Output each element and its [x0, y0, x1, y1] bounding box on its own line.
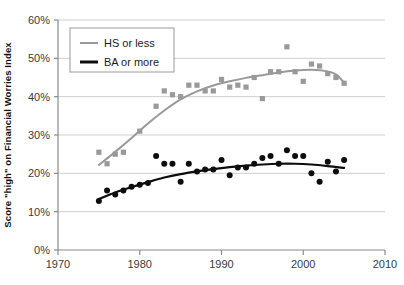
x-tick-label: 1990 [209, 258, 233, 270]
chart-legend: HS or lessBA or more [70, 28, 174, 72]
data-point [186, 161, 192, 167]
y-tick-label: 20% [28, 167, 50, 179]
data-point [154, 104, 159, 109]
data-point [186, 83, 191, 88]
data-point [227, 84, 232, 89]
x-tick-label: 2010 [373, 258, 397, 270]
x-tick-label: 1970 [46, 258, 70, 270]
data-point [333, 168, 339, 174]
data-point [104, 188, 110, 194]
chart-canvas: 0%10%20%30%40%50%60% 1970198019902000201… [0, 0, 404, 285]
data-point [243, 84, 248, 89]
data-point [211, 88, 216, 93]
data-point [219, 157, 225, 163]
data-point [121, 150, 126, 155]
legend-label: HS or less [104, 37, 155, 49]
y-tick-label: 40% [28, 91, 50, 103]
y-tick-label: 50% [28, 52, 50, 64]
data-point [161, 161, 167, 167]
data-point [300, 153, 306, 159]
x-tick-label: 1980 [128, 258, 152, 270]
y-tick-label: 60% [28, 14, 50, 26]
data-point [194, 83, 199, 88]
x-tick-label: 2000 [291, 258, 315, 270]
data-point [227, 172, 233, 178]
data-point [96, 150, 101, 155]
y-tick-label: 0% [34, 244, 50, 256]
data-point [284, 44, 289, 49]
data-point [170, 92, 175, 97]
data-point [153, 153, 159, 159]
data-point [292, 153, 298, 159]
data-point [259, 155, 265, 161]
data-point [178, 179, 184, 185]
data-point [260, 96, 265, 101]
y-tick-label: 30% [28, 129, 50, 141]
financial-worries-chart: 0%10%20%30%40%50%60% 1970198019902000201… [0, 0, 404, 285]
data-point [309, 61, 314, 66]
x-axis-tick-labels: 19701980199020002010 [46, 258, 397, 270]
data-point [341, 157, 347, 163]
data-point [301, 79, 306, 84]
y-axis-tick-labels: 0%10%20%30%40%50%60% [28, 14, 50, 256]
data-point [317, 63, 322, 68]
data-point [268, 153, 274, 159]
data-point [169, 161, 175, 167]
data-point [162, 88, 167, 93]
data-point [308, 170, 314, 176]
legend-label: BA or more [104, 56, 159, 68]
y-axis-title: Score "high" on Financial Worries Index [2, 42, 13, 228]
data-point [219, 77, 224, 82]
data-point [104, 161, 109, 166]
y-tick-label: 10% [28, 206, 50, 218]
x-axis-ticks [58, 250, 385, 255]
data-point [317, 179, 323, 185]
data-point [235, 83, 240, 88]
data-point [284, 147, 290, 153]
data-point [325, 159, 331, 165]
